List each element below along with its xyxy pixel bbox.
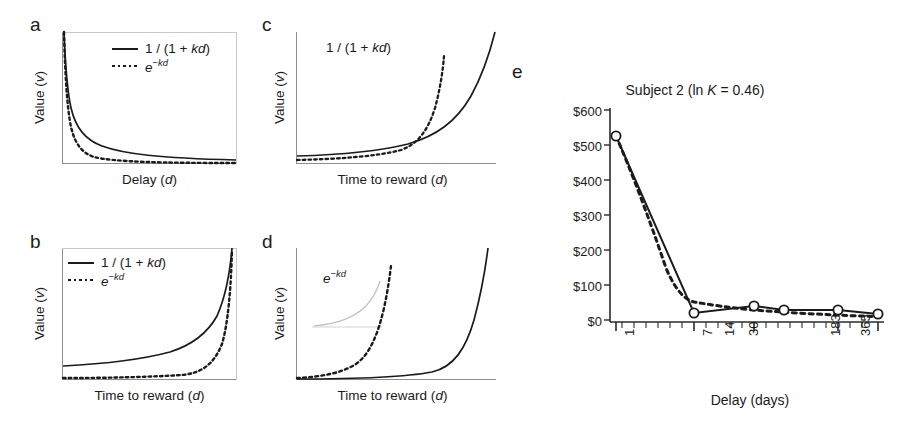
x-tick-14: 14 (722, 322, 737, 336)
panel-d-formula-label: e−kd (323, 268, 346, 286)
panel-d-inset (312, 281, 382, 327)
panel-a-y-axis-label: Value (v) (32, 53, 47, 143)
x-axis-minor-ticks (622, 322, 862, 328)
data-point-day-183 (833, 305, 842, 314)
x-tick-1: 1 (622, 329, 637, 336)
legend-key-solid-line-icon (112, 44, 138, 54)
legend-label-exponential: e−kd (101, 272, 124, 288)
x-tick-365: 365 (858, 314, 873, 336)
panel-c-formula-label: 1 / (1 + kd) (326, 40, 391, 55)
y-axis-label-text: Value (v) (32, 71, 47, 124)
panel-letter-d: d (262, 232, 273, 251)
x-tick-183: 183 (828, 314, 843, 336)
legend-key-dotted-line-icon (68, 275, 94, 285)
y-axis-label-text: Value (v) (272, 287, 287, 340)
panel-d-y-axis-label: Value (v) (272, 269, 287, 359)
x-tick-7: 7 (700, 329, 715, 336)
legend-label-hyperbolic: 1 / (1 + kd) (101, 256, 166, 270)
legend-key-solid-line-icon (68, 258, 94, 268)
x-axis-label-text: Time to reward (d) (338, 172, 448, 187)
x-axis-label-text: Time to reward (d) (338, 388, 448, 403)
panel-d: d Value (v) Time to reward (d) e−kd (248, 218, 498, 438)
panel-e: e Subject 2 (ln K = 0.46) $600 $500 $400… (480, 0, 902, 438)
panel-c: c Value (v) Time to reward (d) 1 / (1 + … (248, 0, 498, 215)
panel-d-x-axis-label: Time to reward (d) (290, 388, 495, 403)
x-tick-30: 30 (746, 322, 761, 336)
data-point-day-1 (611, 131, 620, 140)
panel-c-y-axis-label: Value (v) (272, 53, 287, 143)
x-axis-label-text: Delay (d) (122, 172, 177, 187)
legend-entry-hyperbolic: 1 / (1 + kd) (68, 254, 166, 271)
y-axis-label-text: Value (v) (272, 71, 287, 124)
panel-a-legend: 1 / (1 + kd) e−kd (112, 40, 210, 74)
legend-entry-exponential: e−kd (112, 57, 210, 74)
panel-b-y-axis-label: Value (v) (32, 269, 47, 359)
legend-label-hyperbolic: 1 / (1 + kd) (145, 42, 210, 56)
figure-panels: a Value (v) Delay (d) 1 / (1 + kd) (0, 0, 902, 438)
panel-e-x-axis-label: Delay (days) (640, 392, 860, 408)
data-point-day-365 (873, 309, 882, 318)
panel-c-x-axis-label: Time to reward (d) (290, 172, 495, 187)
series-observed-line (616, 136, 878, 314)
panel-b-x-axis-label: Time to reward (d) (52, 388, 247, 403)
legend-key-dotted-line-icon (112, 61, 138, 71)
y-axis-ticks (604, 110, 610, 320)
y-axis-label-text: Value (v) (32, 287, 47, 340)
x-axis-label-text: Time to reward (d) (95, 388, 205, 403)
panel-b: b Value (v) Time to reward (d) 1 / (1 + … (0, 218, 250, 438)
panel-a: a Value (v) Delay (d) 1 / (1 + kd) (0, 0, 250, 215)
data-point-day-30 (779, 305, 788, 314)
panel-letter-b: b (30, 232, 41, 251)
data-point-day-14 (749, 301, 758, 310)
legend-entry-exponential: e−kd (68, 271, 166, 288)
curve-exponential (297, 56, 444, 160)
data-point-day-7 (689, 308, 698, 317)
legend-label-exponential: e−kd (145, 58, 168, 74)
panel-e-chart (480, 0, 902, 438)
legend-entry-hyperbolic: 1 / (1 + kd) (112, 40, 210, 57)
panel-a-x-axis-label: Delay (d) (62, 172, 237, 187)
panel-letter-c: c (262, 15, 272, 34)
panel-b-legend: 1 / (1 + kd) e−kd (68, 254, 166, 288)
panel-letter-a: a (30, 15, 41, 34)
